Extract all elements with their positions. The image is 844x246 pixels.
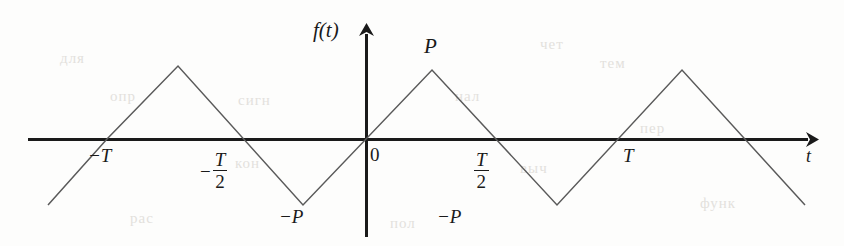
y-axis [359,23,374,237]
tick-label-period: T [623,146,634,165]
tick-label-neg-period: −T [88,146,111,165]
amplitude-negative-label-left: −P [279,207,303,226]
tick-label-neg-half-period: −T2 [200,150,227,192]
figure-canvas: четопрсигнналтемпервычконфункрасполдля f… [0,0,844,246]
x-axis-label: t [806,147,811,165]
neg-half-period-fraction: T2 [213,150,228,192]
origin-label: 0 [370,145,380,164]
x-axis [28,132,819,147]
half-period-numerator: T [474,150,489,169]
waveform-plot [0,0,844,246]
neg-half-period-denominator: 2 [213,171,228,191]
y-axis-label: f(t) [313,20,339,41]
amplitude-positive-label: P [424,36,437,57]
neg-half-period-minus-sign: − [200,162,211,181]
amplitude-negative-label-right: −P [437,207,461,226]
half-period-fraction: T2 [474,150,489,192]
tick-label-half-period: T2 [474,150,489,192]
waveform-trace [48,66,805,205]
neg-half-period-numerator: T [213,150,228,169]
half-period-denominator: 2 [474,171,489,191]
